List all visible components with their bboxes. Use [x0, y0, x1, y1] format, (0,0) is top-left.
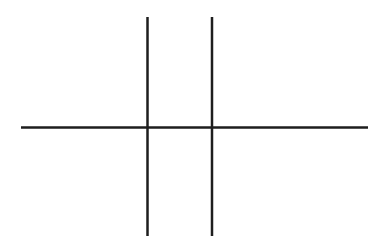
- canvas-background: [0, 0, 388, 251]
- drawing-canvas: [0, 0, 388, 251]
- drawing-surface: [0, 0, 388, 251]
